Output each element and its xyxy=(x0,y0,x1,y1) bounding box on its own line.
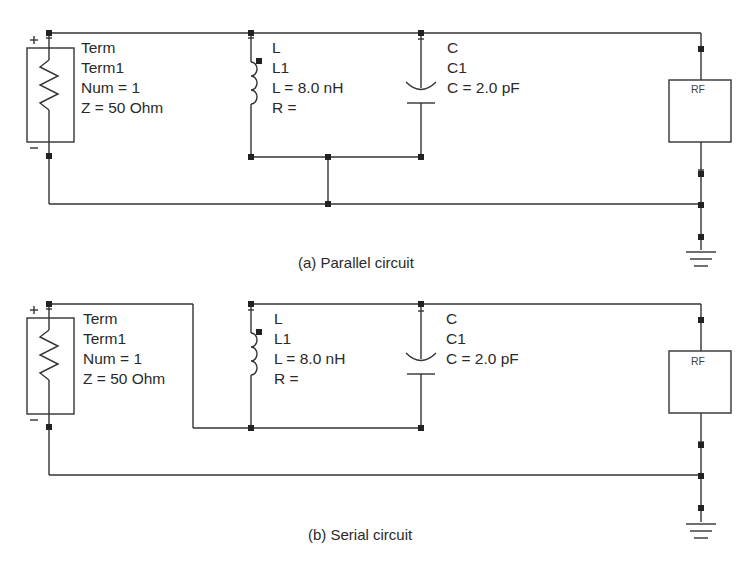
capacitor-name: C1 xyxy=(446,329,519,349)
term-impedance: Z = 50 Ohm xyxy=(81,98,163,118)
inductor-type: L xyxy=(274,309,345,329)
caption-serial: (b) Serial circuit xyxy=(308,526,412,543)
capacitor-value: C = 2.0 pF xyxy=(446,349,519,369)
rf-label: RF xyxy=(691,355,705,367)
inductor-labels: L L1 L = 8.0 nH R = xyxy=(272,38,343,118)
resistor-zigzag-icon xyxy=(40,330,58,380)
inductor-name: L1 xyxy=(274,329,345,349)
inductor-resistance: R = xyxy=(272,98,343,118)
term-type: Term xyxy=(83,309,165,329)
term-name: Term1 xyxy=(81,58,163,78)
capacitor-name: C1 xyxy=(447,58,520,78)
inductor-name: L1 xyxy=(272,58,343,78)
resistor-zigzag-icon xyxy=(40,60,58,110)
rf-label: RF xyxy=(691,83,705,95)
term-box xyxy=(27,48,74,142)
capacitor-type: C xyxy=(446,309,519,329)
term-labels: Term Term1 Num = 1 Z = 50 Ohm xyxy=(81,38,163,118)
inductor-resistance: R = xyxy=(274,369,345,389)
capacitor-value: C = 2.0 pF xyxy=(447,78,520,98)
inductor-labels: L L1 L = 8.0 nH R = xyxy=(274,309,345,389)
term-labels: Term Term1 Num = 1 Z = 50 Ohm xyxy=(83,309,165,389)
inductor-type: L xyxy=(272,38,343,58)
inductor-coil-icon xyxy=(251,333,257,375)
term-num: Num = 1 xyxy=(81,78,163,98)
inductor-value: L = 8.0 nH xyxy=(274,349,345,369)
term-num: Num = 1 xyxy=(83,349,165,369)
capacitor-type: C xyxy=(447,38,520,58)
term-box xyxy=(27,318,74,414)
capacitor-labels: C C1 C = 2.0 pF xyxy=(447,38,520,98)
term-impedance: Z = 50 Ohm xyxy=(83,369,165,389)
inductor-value: L = 8.0 nH xyxy=(272,78,343,98)
term-type: Term xyxy=(81,38,163,58)
capacitor-labels: C C1 C = 2.0 pF xyxy=(446,309,519,369)
caption-parallel: (a) Parallel circuit xyxy=(298,254,414,271)
inductor-coil-icon xyxy=(251,62,257,104)
term-name: Term1 xyxy=(83,329,165,349)
